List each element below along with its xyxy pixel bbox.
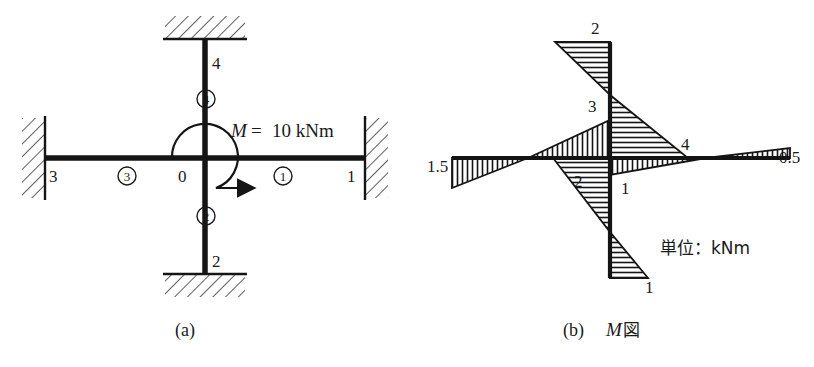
member-label-1-text: 1	[280, 169, 287, 184]
node-label-1: 1	[347, 167, 356, 186]
moment-area-bottom-right	[610, 232, 648, 278]
node-label-3: 3	[49, 167, 58, 186]
moment-area-left-above	[528, 120, 610, 158]
support-bottom-hatch	[165, 275, 245, 297]
caption-b-group: (b) M 図	[563, 319, 640, 341]
caption-a: (a)	[175, 320, 195, 341]
moment-area-bottom-left	[553, 158, 610, 232]
bmd-value-bottom-end: 1	[645, 278, 654, 297]
moment-area-top-right	[610, 95, 688, 158]
support-right	[365, 116, 388, 200]
moment-area-left-below	[452, 158, 528, 188]
support-right-hatch	[366, 118, 388, 198]
applied-moment-equals: =	[251, 120, 262, 141]
member-label-4-text: 4	[203, 92, 210, 107]
support-bottom	[163, 274, 247, 297]
bmd-value-right-node0: 1	[621, 179, 630, 198]
bmd-value-left-node0: 2	[574, 172, 583, 191]
member-label-4: 4	[197, 90, 215, 108]
panel-a: 4 2 3 1 0 4 2 3 1 M	[22, 16, 388, 341]
caption-b-suffix: 図	[623, 320, 640, 340]
member-label-2: 2	[197, 207, 215, 225]
bmd-value-top-end: 2	[591, 19, 600, 38]
moment-area-right-below	[610, 158, 706, 175]
bmd-value-left-end: 1.5	[427, 157, 448, 176]
support-left	[22, 116, 45, 200]
moment-area-top-left	[555, 42, 610, 95]
caption-b-symbol: M	[605, 319, 623, 340]
panel-b: 2 3 1.5 2 1 0.5 1 4 単位：kNm (b) M 図	[427, 19, 800, 341]
support-top-hatch	[165, 16, 245, 38]
bmd-value-right-end: 0.5	[779, 148, 800, 167]
applied-moment-label: M = 10 kNm	[230, 120, 334, 141]
caption-b-prefix: (b)	[563, 320, 584, 341]
applied-moment-symbol: M	[230, 120, 248, 141]
bmd-value-node4-peak: 4	[681, 135, 690, 154]
support-left-hatch	[22, 118, 44, 198]
figure-svg: 4 2 3 1 0 4 2 3 1 M	[0, 0, 814, 367]
member-label-2-text: 2	[203, 209, 210, 224]
figure-root: 4 2 3 1 0 4 2 3 1 M	[0, 0, 814, 367]
node-label-0: 0	[178, 167, 187, 186]
member-label-1: 1	[274, 167, 292, 185]
bmd-unit-note: 単位：kNm	[660, 238, 750, 258]
node-label-4: 4	[212, 54, 221, 73]
member-label-3: 3	[118, 167, 136, 185]
support-top	[163, 16, 247, 39]
bmd-value-top-node0: 3	[588, 97, 597, 116]
member-label-3-text: 3	[124, 169, 131, 184]
applied-moment-value: 10 kNm	[272, 120, 334, 141]
node-label-2: 2	[212, 252, 221, 271]
